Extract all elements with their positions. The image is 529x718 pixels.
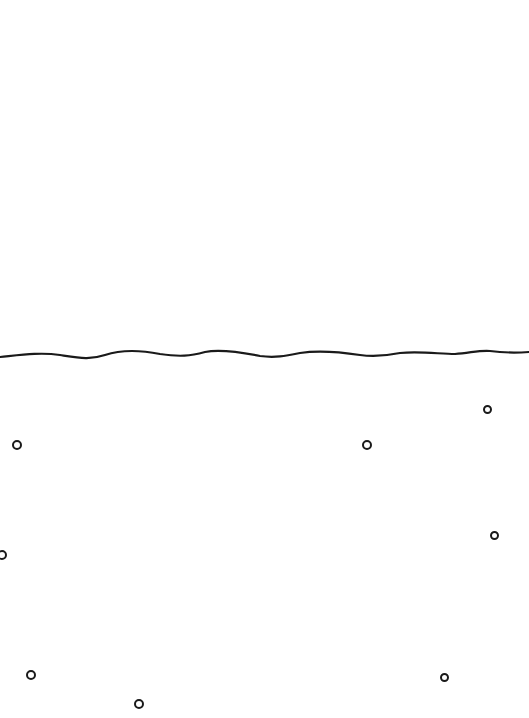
bubble-circle [134,699,144,709]
water-surface-wave [0,351,529,358]
bubble-circle [490,531,499,540]
bubble-circle [26,670,36,680]
wave-svg [0,0,529,718]
bubble-circle [440,673,449,682]
bubble-circle [12,440,22,450]
drawing-canvas [0,0,529,718]
bubble-circle [362,440,372,450]
bubble-circle [483,405,492,414]
